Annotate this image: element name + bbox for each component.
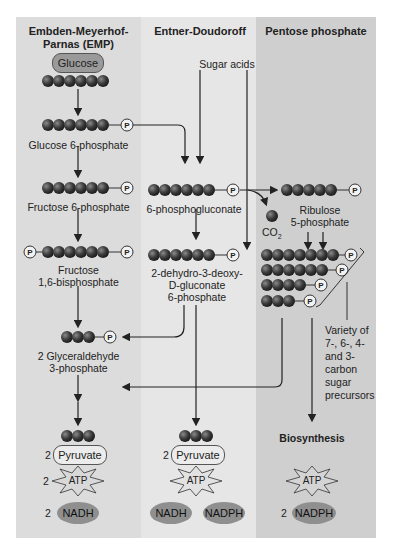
emp-nadh-oval: NADH <box>57 502 99 524</box>
glyceraldehyde-label-2: 3-phosphate <box>16 362 141 374</box>
sugar-acids-label: Sugar acids <box>192 58 262 70</box>
ribulose-label-2: 5-phosphate <box>280 216 360 228</box>
emp-pyruvate-chain <box>61 430 95 442</box>
ribulose-label-1: Ribulose <box>280 204 360 216</box>
pp-ribulose-chain <box>281 184 361 196</box>
ed-pyruvate-count: 2 <box>163 449 169 461</box>
kdpg-label-1: 2-dehydro-3-deoxy- <box>141 267 253 279</box>
pp-nadph-oval: NADPH <box>292 502 336 524</box>
pp-c7-chain <box>261 249 357 261</box>
ed-atp-label: ATP <box>184 475 208 487</box>
fructose-bisphosphate-label-2: 1,6-bisphosphate <box>16 276 141 288</box>
emp-f6p-chain <box>42 182 133 194</box>
biosynthesis-label: Biosynthesis <box>256 432 368 444</box>
pp-c4-chain <box>261 279 327 291</box>
emp-pyruvate-count: 2 <box>45 449 51 461</box>
ed-nadh-oval: NADH <box>150 502 192 524</box>
glyceraldehyde-label-1: 2 Glyceraldehyde <box>16 350 141 362</box>
glucose-6-phosphate-label: Glucose 6-phosphate <box>16 139 141 151</box>
variety-line-6: precursors <box>325 389 375 401</box>
emp-gap-chain <box>61 331 116 343</box>
ed-nadph-oval: NADPH <box>203 502 245 524</box>
pp-nadph-count: 2 <box>281 507 287 519</box>
kdpg-label-2: D-gluconate <box>141 279 253 291</box>
ed-pyruvate-pill: Pyruvate <box>171 445 225 465</box>
emp-g6p-chain <box>42 119 133 131</box>
pp-c3-chain <box>261 295 316 307</box>
pp-atp-label: ATP <box>300 475 324 487</box>
emp-f16bp-chain <box>24 246 133 258</box>
emp-atp-label: ATP <box>66 475 90 487</box>
fructose-bisphosphate-label-1: Fructose <box>16 264 141 276</box>
emp-title-line2: Parnas (EMP) <box>16 38 141 51</box>
variety-line-2: 7-, 6-, 4- <box>325 337 365 349</box>
variety-line-3: and 3- <box>325 350 355 362</box>
metabolic-pathways-diagram: P <box>0 0 394 549</box>
ed-title: Entner-Doudoroff <box>141 25 259 38</box>
co2-text: CO <box>262 226 278 238</box>
emp-glucose-chain <box>42 75 109 87</box>
ed-6pg-chain <box>148 184 239 196</box>
variety-line-4: carbon <box>325 363 357 375</box>
kdpg-label-3: 6-phosphate <box>141 291 253 303</box>
emp-pyruvate-pill: Pyruvate <box>53 445 107 465</box>
co2-label: CO2 <box>262 226 282 243</box>
emp-title-line1: Embden-Meyerhof- <box>16 25 141 38</box>
pp-c6-chain <box>261 264 348 276</box>
ed-kdpg-chain <box>148 249 239 261</box>
emp-nadh-count: 2 <box>45 507 51 519</box>
glucose-pill: Glucose <box>52 53 104 73</box>
co2-ball <box>266 210 278 222</box>
fructose-6-phosphate-label: Fructose 6-phosphate <box>16 201 141 213</box>
6-phosphogluconate-label: 6-phosphogluconate <box>141 203 247 215</box>
pp-title: Pentose phosphate <box>256 25 376 38</box>
emp-atp-count: 2 <box>43 475 49 487</box>
ed-pyruvate-chain <box>179 430 213 442</box>
variety-line-5: sugar <box>325 376 351 388</box>
variety-line-1: Variety of <box>325 324 369 336</box>
co2-subscript: 2 <box>278 233 282 240</box>
